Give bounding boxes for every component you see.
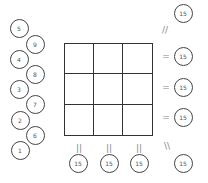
column-equals-sign: || (106, 144, 112, 153)
grid-cell[interactable] (123, 105, 152, 135)
column-sum-3: 15 (130, 154, 149, 173)
grid-cell[interactable] (123, 44, 152, 74)
grid-cell[interactable] (65, 105, 94, 135)
number-tile-1[interactable]: 1 (11, 141, 30, 160)
number-tile-9[interactable]: 9 (26, 35, 45, 54)
row-equals-sign: = (162, 113, 170, 122)
row-sum-2: 15 (174, 78, 193, 97)
grid-cell[interactable] (94, 74, 123, 104)
number-tile-8[interactable]: 8 (26, 65, 45, 84)
row-sum-3: 15 (174, 108, 193, 127)
diagonal-sum-top: 15 (174, 4, 193, 23)
grid-cell[interactable] (65, 74, 94, 104)
number-tile-3[interactable]: 3 (10, 80, 29, 99)
grid-cell[interactable] (94, 105, 123, 135)
row-equals-sign: = (162, 83, 170, 92)
row-equals-sign: = (162, 52, 170, 61)
diagonal-sum-bottom: 15 (174, 154, 193, 173)
grid-cell[interactable] (65, 44, 94, 74)
diagonal-equals-sign: \\ (164, 142, 170, 151)
column-equals-sign: || (136, 144, 142, 153)
number-tile-4[interactable]: 4 (10, 50, 29, 69)
row-sum-1: 15 (174, 47, 193, 66)
grid-cell[interactable] (123, 74, 152, 104)
number-tile-2[interactable]: 2 (11, 111, 30, 130)
column-sum-1: 15 (69, 154, 88, 173)
diagonal-equals-sign: // (162, 26, 168, 35)
number-tile-5[interactable]: 5 (10, 19, 29, 38)
column-sum-2: 15 (100, 154, 119, 173)
grid-cell[interactable] (94, 44, 123, 74)
magic-square-grid (64, 43, 153, 136)
column-equals-sign: || (76, 144, 82, 153)
number-tile-6[interactable]: 6 (26, 126, 45, 145)
number-tile-7[interactable]: 7 (26, 95, 45, 114)
